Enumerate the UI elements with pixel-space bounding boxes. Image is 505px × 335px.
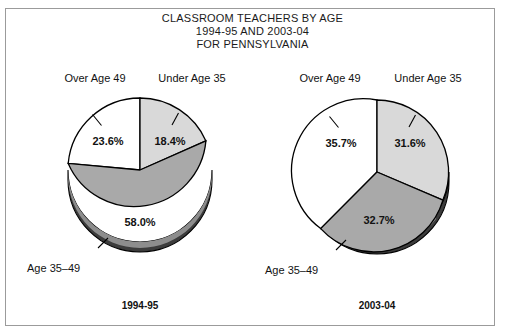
pie-2003-04-value-under: 31.6% <box>394 137 425 149</box>
pie-1994-95-label-under: Under Age 35 <box>158 72 225 84</box>
pie-1994-95-year: 1994-95 <box>122 300 159 311</box>
pie-2003-04-year: 2003-04 <box>359 300 396 311</box>
pie-1994-95-label-middle: Age 35–49 <box>27 262 80 274</box>
pie-chart-1994-95: Over Age 49 Under Age 35 Age 35–49 23.6%… <box>27 72 226 311</box>
pie-1994-95-value-middle: 58.0% <box>124 216 155 228</box>
pie-charts-canvas: Over Age 49 Under Age 35 Age 35–49 23.6%… <box>0 0 505 335</box>
pie-1994-95-value-under: 18.4% <box>154 135 185 147</box>
pie-1994-95-slice-over <box>68 98 140 170</box>
pie-1994-95-value-over: 23.6% <box>92 135 123 147</box>
pie-2003-04-label-middle: Age 35–49 <box>265 264 318 276</box>
pie-2003-04-value-middle: 32.7% <box>363 214 394 226</box>
figure-root: CLASSROOM TEACHERS BY AGE 1994-95 AND 20… <box>0 0 505 335</box>
pie-2003-04-label-under: Under Age 35 <box>394 72 461 84</box>
pie-1994-95-label-over: Over Age 49 <box>64 72 125 84</box>
pie-chart-2003-04: Over Age 49 Under Age 35 Age 35–49 35.7%… <box>265 72 462 311</box>
pie-2003-04-value-over: 35.7% <box>325 137 356 149</box>
pie-2003-04-label-over: Over Age 49 <box>299 72 360 84</box>
